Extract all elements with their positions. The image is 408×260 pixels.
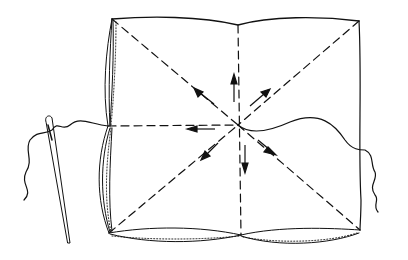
arrow-down-left-icon bbox=[201, 143, 218, 160]
arrow-up-right-icon bbox=[250, 89, 270, 106]
arrow-up-icon bbox=[231, 74, 237, 102]
thread bbox=[24, 118, 378, 212]
rolled-hem-bottom bbox=[109, 228, 360, 243]
direction-arrows bbox=[187, 74, 276, 173]
fold-lines bbox=[108, 19, 360, 235]
arrow-down-icon bbox=[242, 145, 248, 173]
arrow-down-right-icon bbox=[258, 140, 276, 155]
sewing-needle bbox=[46, 116, 70, 243]
arrow-up-left-icon bbox=[194, 88, 214, 104]
sewing-diagram bbox=[0, 0, 408, 260]
arrow-left-icon bbox=[187, 126, 215, 132]
